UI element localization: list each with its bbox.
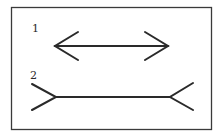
figure-2-left-fin-icon — [32, 84, 56, 110]
diagram-frame — [12, 8, 212, 130]
muller-lyer-diagram: 1 2 — [0, 0, 220, 135]
figure-2-finned-line — [32, 83, 193, 110]
figure-2-label: 2 — [30, 69, 37, 82]
figure-1-double-arrow — [55, 32, 168, 60]
figure-2-right-fin-icon — [170, 83, 193, 110]
figure-1-label: 1 — [32, 22, 39, 35]
